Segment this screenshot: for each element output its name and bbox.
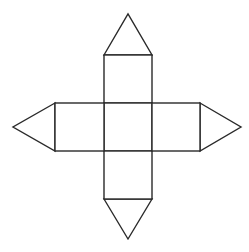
top-rectangle <box>104 55 152 103</box>
bottom-rectangle <box>104 151 152 199</box>
net-diagram <box>0 0 249 252</box>
left-triangle <box>13 103 55 151</box>
top-triangle <box>104 14 152 55</box>
center-square <box>104 103 152 151</box>
right-triangle <box>200 103 241 151</box>
bottom-triangle <box>104 199 152 239</box>
diagram-canvas <box>0 0 249 252</box>
left-rectangle <box>55 103 104 151</box>
right-rectangle <box>152 103 200 151</box>
